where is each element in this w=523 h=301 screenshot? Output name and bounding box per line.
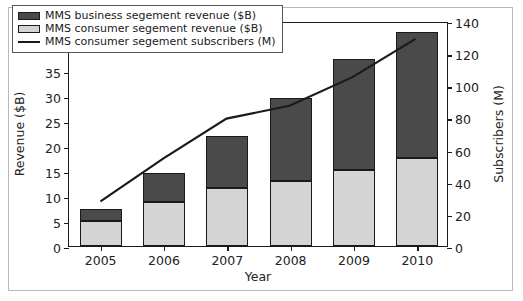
y-axis-title-right: Subscribers (M)	[491, 85, 506, 183]
y-tick-label-right-100: 100	[455, 80, 479, 95]
y-tick-left-15	[64, 173, 69, 174]
x-tick-2010	[417, 246, 418, 251]
legend-label-consumer: MMS consumer segement revenue ($B)	[45, 22, 263, 35]
x-tick-label-2008: 2008	[275, 253, 307, 268]
subscribers-line	[101, 39, 416, 201]
y-tick-label-left-15: 15	[45, 166, 61, 181]
y-tick-right-0	[447, 248, 452, 249]
chart-figure: Revenue ($B) Subscribers (M) Year 200520…	[0, 0, 523, 301]
y-tick-left-20	[64, 148, 69, 149]
x-tick-2005	[101, 246, 102, 251]
y-tick-right-140	[447, 23, 452, 24]
y-tick-label-right-40: 40	[455, 176, 471, 191]
x-tick-label-2005: 2005	[85, 253, 117, 268]
y-tick-left-0	[64, 248, 69, 249]
legend-swatch-consumer-icon	[18, 25, 40, 33]
legend-label-subscribers: MMS consumer segement subscribers (M)	[45, 35, 276, 48]
y-tick-label-right-20: 20	[455, 208, 471, 223]
y-tick-label-left-20: 20	[45, 141, 61, 156]
y-tick-label-left-25: 25	[45, 116, 61, 131]
y-tick-label-right-80: 80	[455, 112, 471, 127]
x-tick-2007	[227, 246, 228, 251]
plot-area: 2005200620072008200920100510152025303540…	[68, 22, 448, 247]
chart-legend: MMS business segement revenue ($B) MMS c…	[12, 5, 283, 53]
y-tick-label-left-10: 10	[45, 191, 61, 206]
x-tick-2006	[164, 246, 165, 251]
x-tick-label-2006: 2006	[148, 253, 180, 268]
x-axis-title: Year	[245, 269, 271, 284]
y-tick-label-left-0: 0	[53, 241, 61, 256]
x-tick-2008	[291, 246, 292, 251]
legend-item-subscribers: MMS consumer segement subscribers (M)	[18, 35, 276, 48]
x-tick-label-2010: 2010	[401, 253, 433, 268]
line-layer	[69, 23, 447, 246]
y-tick-left-10	[64, 198, 69, 199]
y-tick-left-5	[64, 223, 69, 224]
y-tick-label-left-35: 35	[45, 66, 61, 81]
legend-line-subscribers-icon	[18, 38, 40, 46]
y-tick-left-25	[64, 123, 69, 124]
x-tick-label-2007: 2007	[211, 253, 243, 268]
y-tick-left-35	[64, 73, 69, 74]
y-tick-label-right-140: 140	[455, 16, 479, 31]
y-tick-label-left-30: 30	[45, 91, 61, 106]
y-tick-label-right-120: 120	[455, 48, 479, 63]
legend-item-consumer: MMS consumer segement revenue ($B)	[18, 22, 276, 35]
y-axis-title-left: Revenue ($B)	[12, 92, 27, 177]
y-tick-right-60	[447, 152, 452, 153]
y-tick-label-right-60: 60	[455, 144, 471, 159]
y-tick-right-100	[447, 87, 452, 88]
y-tick-right-20	[447, 216, 452, 217]
y-tick-left-30	[64, 98, 69, 99]
x-tick-2009	[354, 246, 355, 251]
y-tick-right-40	[447, 184, 452, 185]
y-tick-label-right-0: 0	[455, 241, 463, 256]
legend-label-business: MMS business segement revenue ($B)	[45, 9, 256, 22]
y-tick-right-80	[447, 119, 452, 120]
legend-swatch-business-icon	[18, 12, 40, 20]
x-tick-label-2009: 2009	[338, 253, 370, 268]
legend-item-business: MMS business segement revenue ($B)	[18, 9, 276, 22]
y-tick-right-120	[447, 55, 452, 56]
y-tick-label-left-5: 5	[53, 216, 61, 231]
subscribers-line-svg	[69, 23, 447, 246]
